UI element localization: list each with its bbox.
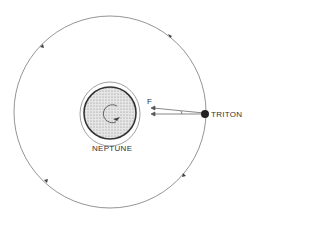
triton-moon <box>201 110 209 118</box>
force-arrows <box>151 106 204 116</box>
triton-label: TRITON <box>211 110 242 119</box>
neptune-label: NEPTUNE <box>92 144 132 153</box>
force-label: F <box>147 97 152 106</box>
neptune-planet <box>80 82 140 146</box>
